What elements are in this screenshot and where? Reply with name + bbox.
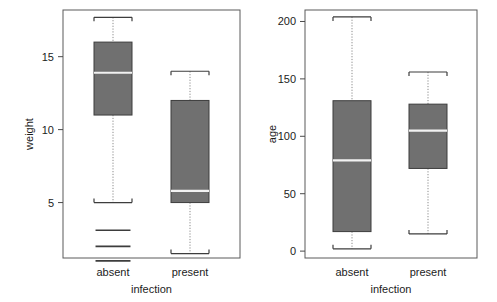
panel-right-xaxis-title: infection (371, 283, 412, 295)
boxplot-figure: 51015weightabsentpresentinfection0501001… (0, 0, 497, 302)
chart-canvas: 51015weightabsentpresentinfection0501001… (0, 0, 497, 302)
panel-right-present-box (409, 104, 447, 168)
panel-right-plot-frame (305, 10, 477, 258)
panel-left-absent-box (94, 42, 132, 115)
panel-left-yaxis-title: weight (23, 118, 35, 151)
panel-right-xtick-label-present: present (410, 266, 447, 278)
panel-right-ytick-label-100: 100 (278, 130, 296, 142)
panel-right-ytick-label-150: 150 (278, 73, 296, 85)
panel-left-xtick-label-present: present (172, 266, 209, 278)
panel-right-absent-box (333, 101, 371, 232)
panel-left-ytick-label-10: 10 (42, 124, 54, 136)
panel-right-ytick-label-50: 50 (284, 188, 296, 200)
panel-left-plot-frame (63, 10, 240, 258)
panel-left-present-box (171, 100, 209, 202)
panel-left-ytick-label-5: 5 (48, 197, 54, 209)
panel-left-ytick-label-15: 15 (42, 51, 54, 63)
panel-right-yaxis-title: age (266, 125, 278, 143)
panel-right-xtick-label-absent: absent (335, 266, 368, 278)
panel-right-ytick-label-200: 200 (278, 15, 296, 27)
panel-left-xaxis-title: infection (131, 283, 172, 295)
panel-right-ytick-label-0: 0 (290, 245, 296, 257)
panel-left-xtick-label-absent: absent (96, 266, 129, 278)
